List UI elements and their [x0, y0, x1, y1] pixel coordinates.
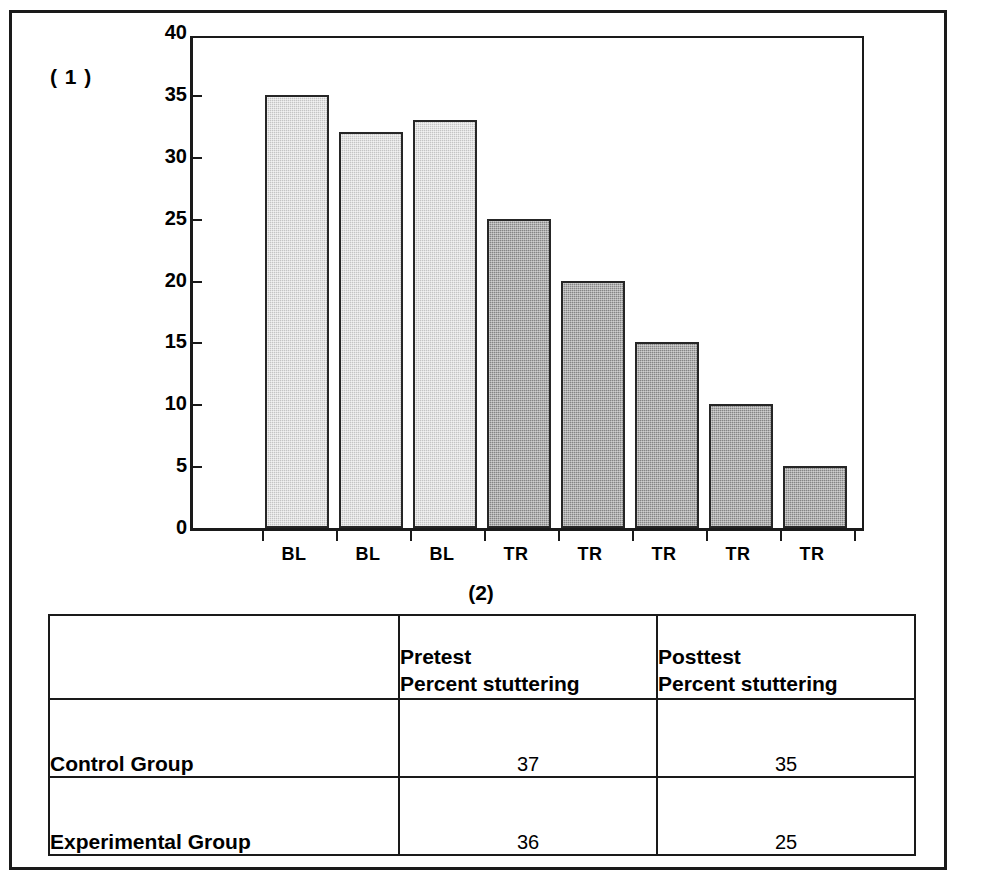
x-axis-tick-mark [780, 531, 782, 541]
table-header-row: Pretest Percent stuttering Posttest Perc… [49, 615, 915, 699]
chart-bar [413, 120, 477, 528]
x-axis-tick-mark [410, 531, 412, 541]
y-axis-tick-label: 30 [165, 146, 193, 166]
chart-bar [635, 342, 699, 528]
x-axis-tick-mark [336, 531, 338, 541]
x-axis-tick-mark [484, 531, 486, 541]
chart-bar [487, 219, 551, 528]
table-cell-control-posttest: 35 [657, 699, 915, 777]
table-cell-control-pretest: 37 [399, 699, 657, 777]
x-axis: BLBLBLTRTRTRTRTR [190, 531, 864, 575]
table-cell-group-control: Control Group [49, 699, 399, 777]
chart-bar [265, 95, 329, 528]
x-axis-tick-label: TR [726, 544, 751, 565]
table-header-pretest: Pretest Percent stuttering [399, 615, 657, 699]
table-header-posttest-line2: Percent stuttering [658, 670, 914, 698]
y-axis-tick-label: 15 [165, 331, 193, 351]
table-header-pretest-line2: Percent stuttering [400, 670, 656, 698]
y-axis-tick-label: 40 [165, 22, 193, 42]
chart-bar [783, 466, 847, 528]
y-axis-tick-mark [193, 528, 202, 530]
table-cell-group-experimental: Experimental Group [49, 777, 399, 855]
x-axis-tick-label: BL [356, 544, 381, 565]
table-body: Control Group 37 35 Experimental Group 3… [49, 699, 915, 855]
plot-area: 0510152025303540 [190, 36, 864, 531]
y-axis-tick-label: 25 [165, 208, 193, 228]
x-axis-tick-mark [632, 531, 634, 541]
x-axis-tick-label: TR [578, 544, 603, 565]
x-axis-tick-label: TR [800, 544, 825, 565]
x-axis-tick-label: BL [282, 544, 307, 565]
x-axis-tick-mark [262, 531, 264, 541]
x-axis-tick-label: TR [504, 544, 529, 565]
x-axis-tick-mark [706, 531, 708, 541]
x-axis-tick-mark [558, 531, 560, 541]
table-head: Pretest Percent stuttering Posttest Perc… [49, 615, 915, 699]
x-axis-tick-mark [854, 531, 856, 541]
chart-bar [339, 132, 403, 528]
plot-inner: 0510152025303540 [193, 38, 862, 528]
panel-one-label: ( 1 ) [50, 65, 92, 89]
table-header-posttest: Posttest Percent stuttering [657, 615, 915, 699]
y-axis-tick-label: 20 [165, 270, 193, 290]
table-header-corner [49, 615, 399, 699]
table-header-posttest-line1: Posttest [658, 643, 914, 671]
bars-layer [193, 38, 862, 528]
table-row: Experimental Group 36 25 [49, 777, 915, 855]
x-axis-tick-label: TR [652, 544, 677, 565]
x-axis-tick-label: BL [430, 544, 455, 565]
chart-bar [709, 404, 773, 528]
y-axis-tick-label: 35 [165, 84, 193, 104]
y-axis-tick-label: 10 [165, 393, 193, 413]
table-row: Control Group 37 35 [49, 699, 915, 777]
y-axis-tick-label: 5 [176, 455, 193, 475]
results-table: Pretest Percent stuttering Posttest Perc… [48, 614, 916, 856]
bar-chart-panel: ( 1 ) 0510152025303540 BLBLBLTRTRTRTRTR [12, 13, 950, 573]
panel-two-label: (2) [12, 581, 950, 605]
table-cell-experimental-posttest: 25 [657, 777, 915, 855]
table-header-pretest-line1: Pretest [400, 643, 656, 671]
chart-bar [561, 281, 625, 529]
table-cell-experimental-pretest: 36 [399, 777, 657, 855]
figure-frame: ( 1 ) 0510152025303540 BLBLBLTRTRTRTRTR … [9, 10, 947, 870]
